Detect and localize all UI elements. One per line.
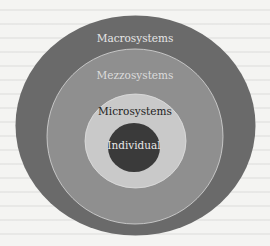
macrosystems-label: Macrosystems [97, 32, 174, 44]
ecological-systems-diagram: Macrosystems Mezzosystems Microsystems I… [0, 0, 270, 246]
microsystems-label: Microsystems [98, 105, 172, 117]
mezzosystems-label: Mezzosystems [97, 69, 174, 81]
individual-label: Individual [107, 139, 161, 151]
diagram-canvas: Macrosystems Mezzosystems Microsystems I… [0, 0, 270, 246]
